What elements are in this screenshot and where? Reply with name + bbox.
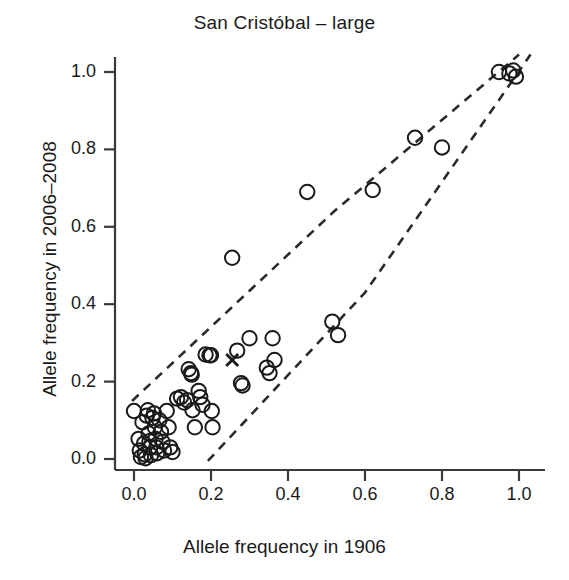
x-tick-label: 0.2: [181, 484, 241, 505]
marker-circle: [300, 185, 314, 199]
marker-circle: [331, 328, 345, 342]
x-tick-label: 0.8: [412, 484, 472, 505]
x-tick-label: 0.0: [104, 484, 164, 505]
marker-circle: [366, 183, 380, 197]
marker-circle: [435, 140, 449, 154]
data-points: [127, 63, 523, 465]
lower-confidence-boundary: [208, 55, 531, 461]
marker-circle: [265, 331, 279, 345]
scatter-plot-figure: San Cristóbal – large 0.00.20.40.60.81.0…: [0, 0, 569, 580]
x-axis-title: Allele frequency in 1906: [0, 536, 569, 558]
marker-circle: [165, 445, 179, 459]
upper-confidence-boundary: [132, 55, 519, 401]
marker-circle: [188, 420, 202, 434]
x-tick-label: 0.4: [258, 484, 318, 505]
x-tick-label: 1.0: [489, 484, 549, 505]
marker-circle: [225, 251, 239, 265]
marker-circle: [242, 331, 256, 345]
y-axis-title: Allele frequency in 2006–2008: [39, 0, 61, 549]
marker-circle: [205, 420, 219, 434]
x-tick-label: 0.6: [335, 484, 395, 505]
